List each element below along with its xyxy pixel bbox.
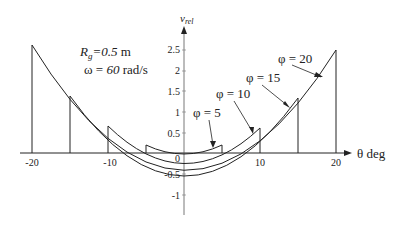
y-tick-0: 0	[175, 153, 180, 164]
arrow-phi-10-icon	[249, 127, 254, 134]
y-tick-1.5: 1.5	[168, 86, 181, 97]
x-tick-neg10: -10	[103, 157, 116, 168]
arrow-phi-5-icon	[210, 141, 216, 148]
arrow-phi-20-icon	[314, 72, 323, 77]
label-phi-15: φ = 15	[246, 70, 280, 85]
x-axis-arrow-icon	[344, 150, 352, 156]
chart: 2.5 2 1.5 1 0.5 0 -0.5 -1 -20 -10 10 20 …	[0, 0, 409, 230]
y-tick-2.5: 2.5	[168, 44, 181, 55]
x-tick-20: 20	[331, 157, 341, 168]
y-tick-2: 2	[175, 65, 180, 76]
y-tick-1: 1	[175, 107, 180, 118]
x-tick-neg20: -20	[25, 157, 38, 168]
y-tick-0.5: 0.5	[168, 128, 181, 139]
rg-annotation: Rg=0.5 m	[79, 44, 131, 61]
arrow-phi-15-icon	[283, 101, 290, 108]
label-phi-10: φ = 10	[216, 86, 250, 101]
y-tick-neg1: -1	[172, 190, 180, 201]
omega-annotation: ω = 60 rad/s	[84, 62, 148, 77]
y-axis-arrow-icon	[181, 26, 187, 34]
label-phi-5: φ = 5	[193, 105, 221, 120]
label-phi-20: φ = 20	[278, 51, 312, 66]
x-tick-10: 10	[255, 157, 265, 168]
x-axis-label: θ deg	[357, 146, 386, 161]
y-axis-label: vrel	[180, 12, 194, 26]
series-labels: φ = 20 φ = 15 φ = 10 φ = 5	[193, 51, 323, 148]
